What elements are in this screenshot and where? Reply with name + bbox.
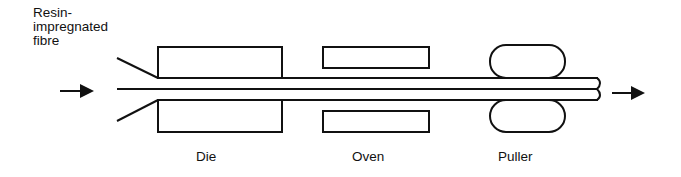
puller-label: Puller: [498, 150, 533, 164]
profile-break: [597, 78, 600, 100]
input-material-label: Resin- impregnated fibre: [33, 6, 108, 48]
feed-line-lower: [117, 100, 158, 121]
oven-label: Oven: [352, 150, 384, 164]
input-label-line-2: impregnated: [33, 20, 108, 34]
input-label-line-1: Resin-: [33, 6, 108, 20]
output-arrow-icon: [612, 86, 645, 100]
feed-line-upper: [117, 58, 158, 78]
pultrusion-diagram: Resin- impregnated fibre Die Oven Puller: [0, 0, 681, 177]
input-arrow-icon: [60, 84, 94, 98]
die-label: Die: [196, 150, 216, 164]
input-label-line-3: fibre: [33, 34, 108, 48]
